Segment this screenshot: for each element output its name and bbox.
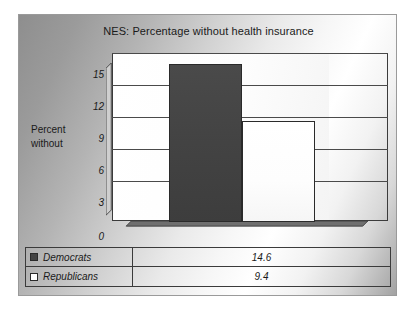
chart-title: NES: Percentage without health insurance (19, 25, 398, 37)
y-tick-12: 12 (93, 101, 104, 112)
legend-entry-republicans[interactable]: Republicans (26, 267, 133, 286)
plot-area (106, 53, 388, 235)
y-tick-0: 0 (98, 231, 104, 242)
y-tick-3: 3 (98, 197, 104, 208)
legend-swatch-democrats (30, 253, 38, 261)
plot-floor (106, 221, 388, 233)
bar-democrats[interactable] (169, 64, 242, 222)
legend-label-republicans: Republicans (43, 271, 98, 282)
gridline-9 (112, 117, 388, 118)
y-tick-9: 9 (98, 133, 104, 144)
value-republicans: 9.4 (133, 267, 390, 286)
y-tick-15: 15 (93, 69, 104, 80)
value-democrats: 14.6 (133, 248, 390, 266)
table-row: Democrats 14.6 (26, 248, 390, 267)
gridline-12 (112, 85, 388, 86)
chart-frame: NES: Percentage without health insurance… (18, 14, 397, 296)
legend-swatch-republicans (30, 273, 38, 281)
data-table: Democrats 14.6 Republicans 9.4 (25, 247, 391, 287)
table-row: Republicans 9.4 (26, 267, 390, 286)
legend-entry-democrats[interactable]: Democrats (26, 248, 133, 266)
screenshot-root: NES: Percentage without health insurance… (0, 0, 416, 317)
bar-republicans[interactable] (242, 121, 315, 222)
legend-label-democrats: Democrats (43, 252, 91, 263)
gridline-15 (112, 53, 388, 54)
y-axis-tick-labels: 15 12 9 6 3 0 (74, 45, 104, 245)
y-tick-6: 6 (98, 165, 104, 176)
